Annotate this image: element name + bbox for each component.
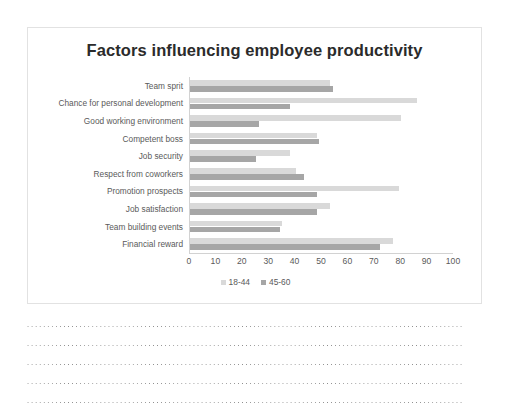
category-axis-labels: Team spritChance for personal developmen… [28, 77, 187, 253]
bar-group [190, 147, 453, 165]
legend-label: 45-60 [269, 277, 290, 287]
category-label: Team building events [105, 222, 183, 232]
ruled-line [26, 383, 463, 384]
x-axis-line [189, 253, 453, 254]
bar-45-60-4 [190, 156, 256, 162]
bar-group [190, 218, 453, 236]
dotted-ruled-lines [26, 326, 463, 413]
x-tick-label: 60 [343, 256, 353, 266]
legend-item-45-60[interactable]: 45-60 [261, 277, 290, 287]
bar-group [190, 112, 453, 130]
category-label: Good working environment [84, 116, 183, 126]
category-label: Job satisfaction [126, 204, 183, 214]
x-tick-label: 30 [263, 256, 273, 266]
bar-45-60-3 [190, 139, 319, 145]
bar-45-60-6 [190, 192, 317, 198]
bar-18-44-1 [190, 98, 417, 104]
page-root: Factors influencing employee productivit… [0, 0, 509, 413]
chart-legend: 18-4445-60 [28, 277, 483, 287]
bar-18-44-3 [190, 133, 317, 139]
bar-18-44-5 [190, 168, 296, 174]
ruled-line [26, 402, 463, 403]
x-tick-label: 100 [446, 256, 460, 266]
ruled-line [26, 326, 463, 327]
bar-45-60-9 [190, 244, 380, 250]
bar-45-60-0 [190, 86, 333, 92]
bar-45-60-1 [190, 104, 290, 110]
bar-18-44-0 [190, 80, 330, 86]
x-tick-label: 70 [369, 256, 379, 266]
bar-45-60-7 [190, 209, 317, 215]
bar-group [190, 95, 453, 113]
ruled-line [26, 345, 463, 346]
category-label: Promotion prospects [107, 186, 183, 196]
bar-18-44-2 [190, 115, 401, 121]
bar-group [190, 183, 453, 201]
bar-18-44-4 [190, 150, 290, 156]
x-tick-label: 10 [211, 256, 221, 266]
bar-group [190, 130, 453, 148]
category-label: Chance for personal development [58, 98, 183, 108]
x-tick-label: 20 [237, 256, 247, 266]
bar-group [190, 165, 453, 183]
category-label: Job security [139, 151, 183, 161]
legend-swatch-icon [221, 280, 226, 285]
x-tick-label: 40 [290, 256, 300, 266]
bar-18-44-9 [190, 238, 393, 244]
bar-45-60-5 [190, 174, 304, 180]
legend-label: 18-44 [229, 277, 250, 287]
bar-group [190, 200, 453, 218]
bar-group [190, 235, 453, 253]
bar-18-44-8 [190, 221, 282, 227]
x-tick-label: 0 [187, 256, 192, 266]
plot-area: Team spritChance for personal developmen… [28, 77, 483, 305]
ruled-line [26, 364, 463, 365]
x-tick-label: 80 [395, 256, 405, 266]
bar-45-60-2 [190, 121, 259, 127]
chart-title: Factors influencing employee productivit… [28, 41, 481, 60]
bar-18-44-7 [190, 203, 330, 209]
legend-swatch-icon [261, 280, 266, 285]
bars-plot-region [189, 77, 453, 253]
category-label: Respect from coworkers [94, 169, 183, 179]
x-axis-tick-labels: 0102030405060708090100 [189, 256, 453, 270]
chart-container: Factors influencing employee productivit… [27, 27, 482, 304]
bar-45-60-8 [190, 227, 280, 233]
category-label: Competent boss [123, 134, 183, 144]
legend-item-18-44[interactable]: 18-44 [221, 277, 250, 287]
category-label: Team sprit [145, 81, 183, 91]
bar-group [190, 77, 453, 95]
x-tick-label: 50 [316, 256, 326, 266]
bar-18-44-6 [190, 186, 399, 192]
x-tick-label: 90 [422, 256, 432, 266]
category-label: Financial reward [122, 239, 183, 249]
